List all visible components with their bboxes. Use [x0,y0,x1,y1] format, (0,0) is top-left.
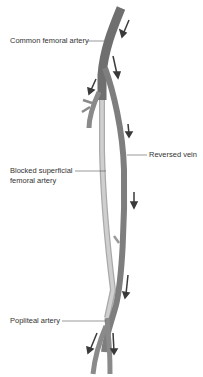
label-reversed-vein: Reversed vein [149,150,197,160]
profunda-branch [89,92,99,128]
sfa-small-branch [114,236,119,243]
label-common-femoral-artery: Common femoral artery [10,36,89,46]
popliteal-artery [107,318,110,374]
label-blocked-sfa-line1: Blocked superficial [10,166,73,176]
label-popliteal-artery: Popliteal artery [10,316,60,326]
label-blocked-sfa-line2: femoral artery [10,176,56,186]
